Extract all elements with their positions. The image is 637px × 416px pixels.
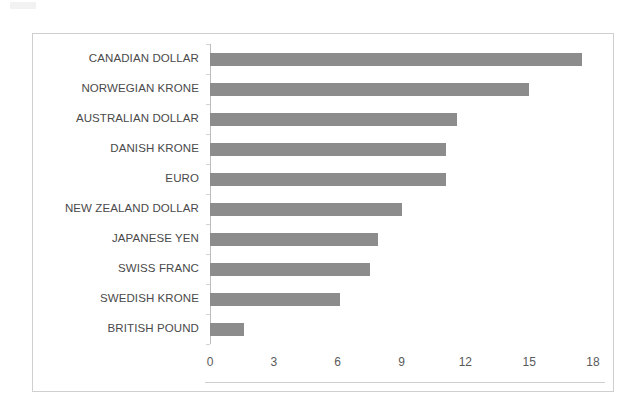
bar-row [210,44,593,74]
value-axis-tick-labels: 0369121518 [210,356,593,376]
category-label: NORWEGIAN KRONE [81,83,199,95]
category-label: JAPANESE YEN [112,233,199,245]
bar-row [210,134,593,164]
category-label: AUSTRALIAN DOLLAR [76,113,199,125]
bar-row [210,164,593,194]
scan-artifact [10,2,36,9]
category-label: SWEDISH KRONE [100,293,199,305]
category-label: NEW ZEALAND DOLLAR [65,203,199,215]
axis-tick [206,344,210,345]
category-label: DANISH KRONE [110,143,199,155]
value-axis-tick-label: 18 [586,356,599,368]
value-axis-tick-label: 9 [398,356,405,368]
bar-row [210,194,593,224]
bar-row [210,284,593,314]
value-axis-baseline [205,382,605,383]
category-label: CANADIAN DOLLAR [89,53,199,65]
value-axis-tick-label: 12 [459,356,472,368]
bar [210,143,446,156]
plot-area [210,44,593,344]
bar-row [210,254,593,284]
plot-wrapper: CANADIAN DOLLAR NORWEGIAN KRONE AUSTRALI… [33,34,613,391]
bar-series [210,44,593,344]
bar [210,83,529,96]
bar-row [210,104,593,134]
bar-row [210,224,593,254]
category-label: BRITISH POUND [108,323,199,335]
bar [210,293,340,306]
value-axis-tick-label: 0 [207,356,214,368]
bar-row [210,74,593,104]
bar [210,173,446,186]
bar [210,113,457,126]
value-axis-tick-label: 3 [270,356,277,368]
chart-frame: CANADIAN DOLLAR NORWEGIAN KRONE AUSTRALI… [32,33,614,392]
value-axis-tick-label: 15 [522,356,535,368]
bar [210,203,402,216]
bar [210,233,378,246]
value-axis-tick-label: 6 [334,356,341,368]
bar [210,263,370,276]
bar-row [210,314,593,344]
category-label: SWISS FRANC [118,263,199,275]
bar [210,323,244,336]
category-axis-labels: CANADIAN DOLLAR NORWEGIAN KRONE AUSTRALI… [33,44,205,344]
category-label: EURO [165,173,199,185]
bar [210,53,582,66]
